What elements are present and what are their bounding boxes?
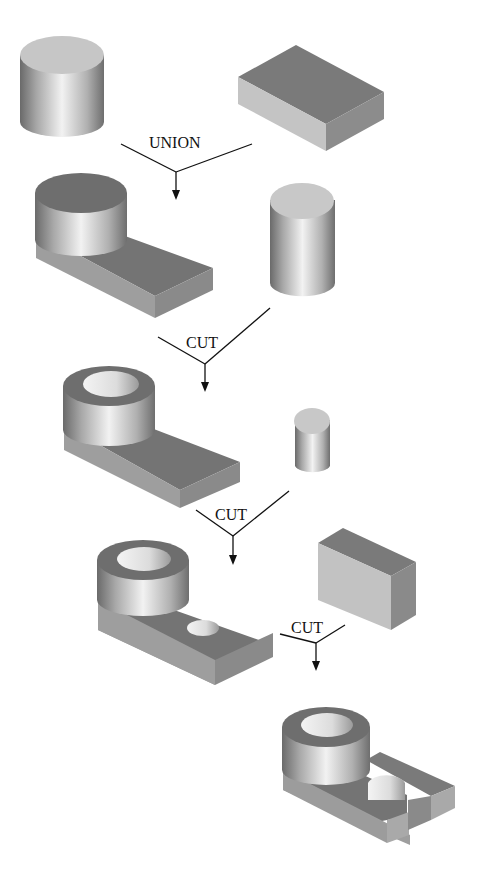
step1-boss-on-slab bbox=[35, 173, 213, 318]
op-label-cut-2: CUT bbox=[215, 506, 247, 523]
box-slab bbox=[238, 45, 384, 151]
op-label-cut-3: CUT bbox=[291, 619, 323, 636]
op-cut-2: CUT bbox=[196, 491, 289, 565]
cylinder-large bbox=[20, 36, 104, 137]
step2-hollow-boss bbox=[63, 366, 240, 508]
op-union: UNION bbox=[121, 134, 252, 200]
op-cut-3: CUT bbox=[280, 619, 345, 671]
cylinder-small bbox=[294, 408, 330, 472]
step4-slotted-part bbox=[282, 707, 455, 845]
op-label-cut-1: CUT bbox=[186, 334, 218, 351]
step3-slab-hole bbox=[97, 540, 273, 685]
cylinder-medium bbox=[270, 183, 335, 296]
op-cut-1: CUT bbox=[158, 308, 270, 392]
op-label-union: UNION bbox=[149, 134, 201, 151]
box-block bbox=[318, 528, 416, 630]
csg-diagram: UNION CUT CUT bbox=[0, 0, 484, 879]
